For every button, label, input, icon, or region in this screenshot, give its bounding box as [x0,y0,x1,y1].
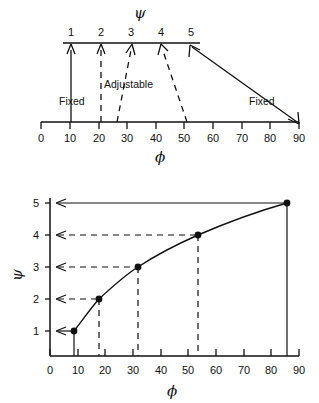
chart-ytick-label: 3 [33,261,39,273]
chart-x-ticks [50,349,299,356]
data-point [71,328,78,335]
top-phi-tick-label: 30 [121,132,133,144]
annotation-adjustable: Adjustable [104,78,153,90]
mapping-arrowhead-4 [158,44,168,55]
chart-xtick-label: 90 [293,364,305,376]
mapping-line-4 [163,51,187,122]
chart-xtick-label: 20 [99,364,111,376]
chart-xtick-label: 30 [127,364,139,376]
top-phi-tick-label: 80 [264,132,276,144]
chart-xtick-label: 50 [182,364,194,376]
top-phi-tick-label: 50 [178,132,190,144]
chart-ytick-label: 4 [33,229,39,241]
data-point [135,264,142,271]
psi-tick-label: 2 [98,26,104,38]
chart-xtick-label: 0 [47,364,53,376]
top-phi-tick-label: 90 [293,132,305,144]
chart-xtick-label: 70 [238,364,250,376]
chart-xtick-label: 10 [72,364,84,376]
data-point [195,232,202,239]
top-phi-tick-label: 70 [236,132,248,144]
top-phi-ticks [41,122,299,129]
data-point [284,200,291,207]
annotation-fixed-right: Fixed [249,95,275,107]
chart-ytick-label: 5 [33,197,39,209]
chart-x-axis-label: ϕ [167,382,177,400]
annotation-fixed-left: Fixed [59,95,85,107]
top-phi-tick-label: 0 [38,132,44,144]
chart-ytick-label: 2 [33,293,39,305]
chart-xtick-label: 40 [155,364,167,376]
bottom-chart: 5 4 3 2 1 ψ [8,197,305,400]
top-phi-tick-label: 60 [207,132,219,144]
top-phi-tick-label: 20 [93,132,105,144]
data-point [96,296,103,303]
chart-xtick-label: 80 [265,364,277,376]
psi-tick-label: 3 [128,26,134,38]
psi-tick-label: 5 [188,26,194,38]
top-phi-tick-label: 10 [64,132,76,144]
chart-y-axis-label: ψ [8,269,26,281]
figure-root: ψ 1 2 3 4 5 Fixed Adjustable Fixed [0,0,319,403]
chart-ytick-label: 1 [33,325,39,337]
top-psi-axis-label: ψ [134,4,146,22]
chart-xtick-label: 60 [210,364,222,376]
top-phi-axis-label: ϕ [155,148,165,166]
psi-tick-label: 1 [68,26,74,38]
top-phi-tick-label: 40 [150,132,162,144]
psi-tick-label: 4 [158,26,164,38]
mapping-line-5 [192,47,297,122]
top-panel: ψ 1 2 3 4 5 Fixed Adjustable Fixed [38,4,305,166]
